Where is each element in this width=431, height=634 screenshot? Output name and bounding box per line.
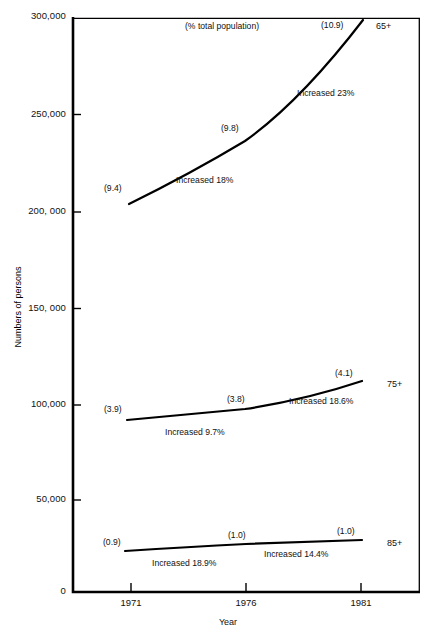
x-axis-title: Year (198, 617, 258, 627)
y-tick-label-0: 0 (4, 586, 66, 596)
point-label-85plus-1971: (0.9) (103, 537, 121, 547)
segment-label-85plus-1971-1976: Increased 18.9% (152, 558, 217, 568)
y-axis-title-wrapper: Numbers of persons (13, 257, 27, 357)
point-label-75plus-1981: (4.1) (335, 368, 353, 378)
x-axis-ticks (131, 583, 361, 592)
point-label-65plus-1971: (9.4) (104, 183, 122, 193)
y-tick-label-250000: 250,000 (4, 109, 66, 119)
y-tick-label-100000: 100,000 (4, 399, 66, 409)
population-note: (% total population) (185, 21, 259, 31)
series-label-85plus: 85+ (387, 538, 402, 548)
x-tick-label-1971: 1971 (106, 598, 156, 608)
series-label-75plus: 75+ (387, 379, 402, 389)
series-line-65plus (129, 20, 363, 204)
segment-label-65plus-1976-1981: Increased 23% (297, 88, 354, 98)
segment-label-75plus-1971-1976: Increased 9.7% (165, 427, 225, 437)
y-tick-label-200000: 200, 000 (4, 206, 66, 216)
point-label-65plus-1981: (10.9) (321, 20, 343, 30)
y-axis-title: Numbers of persons (13, 257, 23, 357)
chart-container: 300,000 250,000 200, 000 150, 000 100,00… (0, 0, 431, 634)
x-tick-label-1981: 1981 (336, 598, 386, 608)
point-label-65plus-1976: (9.8) (221, 123, 239, 133)
point-label-75plus-1971: (3.9) (104, 404, 122, 414)
x-tick-label-1976: 1976 (221, 598, 271, 608)
chart-canvas (0, 0, 431, 634)
point-label-75plus-1976: (3.8) (227, 394, 245, 404)
y-tick-label-50000: 50,000 (4, 494, 66, 504)
y-tick-label-300000: 300,000 (4, 11, 66, 21)
segment-label-85plus-1976-1981: Increased 14.4% (264, 549, 329, 559)
series-label-65plus: 65+ (376, 21, 391, 31)
point-label-85plus-1976: (1.0) (228, 530, 246, 540)
axis-frame (73, 17, 420, 592)
segment-label-75plus-1976-1981: Increased 18.6% (289, 396, 354, 406)
point-label-85plus-1981: (1.0) (337, 526, 355, 536)
segment-label-65plus-1971-1976: Increased 18% (176, 175, 233, 185)
